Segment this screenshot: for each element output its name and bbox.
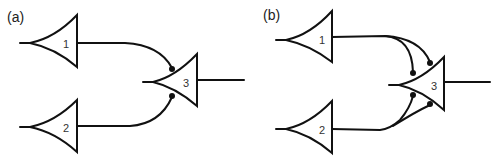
neuron-a3-body bbox=[153, 54, 197, 106]
neuron-b3-body bbox=[399, 57, 444, 110]
neuron-a2-body bbox=[30, 100, 77, 152]
neuron-a1-body bbox=[30, 15, 77, 67]
synapse-b1-b3-1 bbox=[410, 70, 416, 76]
neuron-a1-label: 1 bbox=[63, 38, 69, 50]
synapse-b2-b3-1 bbox=[410, 92, 416, 98]
axon-a2-to-a3 bbox=[77, 97, 172, 126]
neuron-a3: 3 bbox=[143, 54, 244, 106]
synapse-b2-b3-2 bbox=[427, 101, 433, 107]
neuron-a1: 1 bbox=[20, 15, 77, 67]
neuron-a3-label: 3 bbox=[183, 77, 189, 89]
neural-circuit-diagram: (a) 1 2 3 (b) bbox=[0, 0, 496, 162]
panel-b-label: (b) bbox=[263, 7, 280, 23]
axon-b1-to-b3-branch-1 bbox=[332, 36, 413, 72]
neuron-b3: 3 bbox=[389, 57, 490, 110]
neuron-a2: 2 bbox=[20, 100, 77, 152]
synapse-a1-a3 bbox=[169, 66, 175, 72]
axon-b2-to-b3-branch-2 bbox=[393, 105, 430, 126]
panel-a: (a) 1 2 3 bbox=[7, 9, 244, 152]
neuron-b1: 1 bbox=[276, 11, 332, 62]
synapse-b1-b3-2 bbox=[427, 60, 433, 66]
synapse-a2-a3 bbox=[169, 93, 175, 99]
axon-b2-to-b3-branch-1 bbox=[332, 96, 413, 130]
neuron-a2-label: 2 bbox=[63, 122, 69, 134]
panel-b: (b) 1 2 3 bbox=[263, 7, 490, 153]
panel-a-label: (a) bbox=[7, 9, 24, 25]
neuron-b3-label: 3 bbox=[431, 80, 437, 92]
neuron-b2-label: 2 bbox=[319, 124, 325, 136]
axon-a1-to-a3 bbox=[77, 43, 172, 68]
neuron-b2: 2 bbox=[276, 101, 332, 153]
neuron-b1-label: 1 bbox=[319, 34, 325, 46]
